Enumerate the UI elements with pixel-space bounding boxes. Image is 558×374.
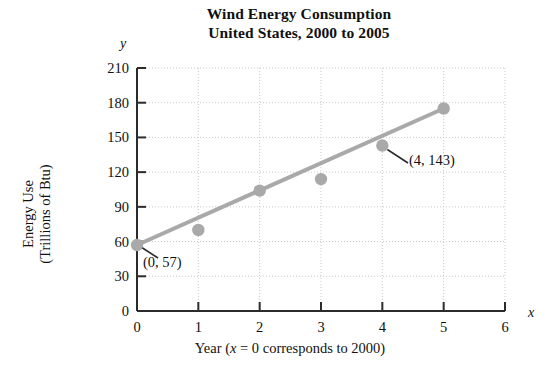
regression-line xyxy=(137,109,444,246)
plot-area xyxy=(0,0,558,374)
x-axis-tick-label: 2 xyxy=(248,320,272,334)
chart-figure: Wind Energy Consumption United States, 2… xyxy=(0,0,558,374)
trend-line xyxy=(137,109,444,246)
x-axis-tick-label: 4 xyxy=(370,320,394,334)
y-axis-tick-label: 60 xyxy=(89,235,129,249)
leader-line-point-0 xyxy=(141,247,158,258)
data-point xyxy=(253,184,265,196)
y-axis-tick-label: 180 xyxy=(89,96,129,110)
y-axis-tick-label: 30 xyxy=(89,269,129,283)
x-axis-tick-label: 6 xyxy=(493,320,517,334)
y-axis-tick-label: 0 xyxy=(89,304,129,318)
data-point xyxy=(192,224,204,236)
leader-line-point-4 xyxy=(387,150,408,163)
data-point xyxy=(437,102,449,114)
y-axis-tick-label: 120 xyxy=(89,165,129,179)
x-axis-tick-label: 3 xyxy=(309,320,333,334)
x-axis-tick-label: 5 xyxy=(432,320,456,334)
x-axis-tick-label: 1 xyxy=(186,320,210,334)
y-axis-tick-label: 210 xyxy=(89,61,129,75)
y-axis-tick-label: 90 xyxy=(89,200,129,214)
annotation-leader-lines xyxy=(141,150,408,258)
gridlines xyxy=(137,68,505,311)
data-point xyxy=(315,173,327,185)
y-axis-tick-label: 150 xyxy=(89,130,129,144)
x-axis-tick-label: 0 xyxy=(125,320,149,334)
data-point xyxy=(376,139,388,151)
data-point xyxy=(131,239,143,251)
